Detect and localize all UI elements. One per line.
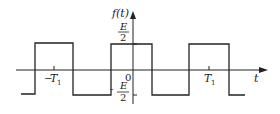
lower-level-denominator: 2 — [120, 92, 126, 103]
t-axis-arrow-icon — [259, 67, 268, 73]
upper-level-numerator: E — [119, 21, 128, 32]
neg-T1-subscript: 1 — [57, 79, 61, 87]
lower-level-numerator: E — [119, 80, 128, 91]
square-wave-diagram: f(t) t 0 E 2 - E 2 − T 1 T 1 — [0, 0, 280, 114]
pos-T1-subscript: 1 — [211, 79, 215, 87]
upper-level-denominator: 2 — [120, 32, 126, 43]
f-axis-arrow-icon — [130, 11, 136, 19]
y-axis-label: f(t) — [111, 7, 129, 20]
lower-level-sign: - — [110, 83, 113, 94]
x-axis-label: t — [254, 72, 259, 85]
